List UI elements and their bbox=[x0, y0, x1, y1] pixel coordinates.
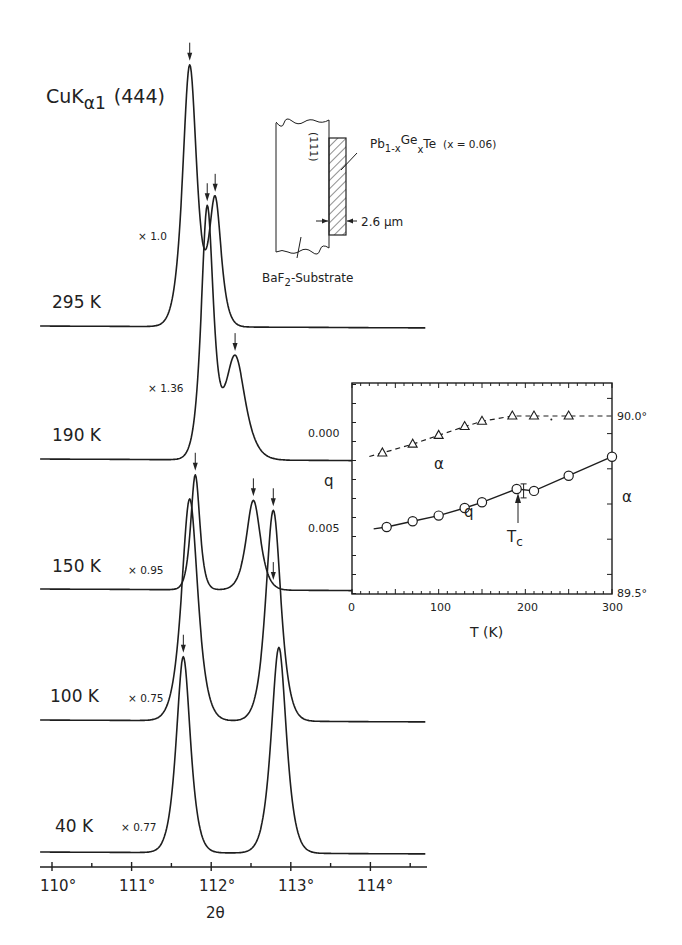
peak-arrowhead bbox=[233, 343, 238, 351]
inset-x-tick-100: 100 bbox=[430, 601, 451, 614]
scale-label-150k: × 0.95 bbox=[128, 564, 164, 576]
curve-label-150k: 150 K bbox=[52, 556, 102, 576]
thickness-arrowhead-left bbox=[322, 219, 328, 224]
peak-arrowhead bbox=[181, 645, 186, 653]
main-title: CuKα1(444) bbox=[46, 85, 165, 113]
xrd-figure: CuKα1(444) 295 K 190 K 150 K 100 K 40 K … bbox=[0, 0, 682, 945]
q-circle-marker bbox=[408, 517, 417, 526]
inset-y-label-q: q bbox=[324, 472, 334, 490]
curve-label-40k: 40 K bbox=[55, 816, 94, 836]
x-axis-label: 2θ bbox=[206, 904, 225, 922]
stray-dot bbox=[550, 419, 552, 421]
q-circle-marker bbox=[512, 484, 521, 493]
inset-x-tick-200: 200 bbox=[517, 601, 538, 614]
q-circle-marker bbox=[477, 498, 486, 507]
substrate-leader-line bbox=[297, 237, 301, 258]
x-tick-114: 114° bbox=[357, 877, 393, 895]
thickness-label: 2.6 µm bbox=[361, 215, 403, 229]
peak-arrowhead bbox=[271, 572, 276, 580]
film-formula: Pb1-xGexTe(x = 0.06) bbox=[370, 133, 496, 155]
inset-y-label-alpha: α bbox=[622, 488, 632, 506]
q-circle-marker bbox=[382, 522, 391, 531]
q-circle-marker bbox=[607, 452, 616, 461]
inset-y-tick-0000: 0.000 bbox=[308, 427, 340, 440]
inset-y-tick-0005: 0.005 bbox=[308, 522, 340, 535]
sample-schematic: (111) Pb1-xGexTe(x = 0.06) 2.6 µm BaF2-S… bbox=[262, 119, 496, 288]
diffraction-curve-40k bbox=[40, 647, 425, 854]
x-tick-112: 112° bbox=[199, 877, 235, 895]
peak-arrowhead bbox=[271, 498, 276, 506]
q-circle-marker bbox=[434, 511, 443, 520]
thickness-arrowhead-right bbox=[347, 219, 353, 224]
x-tick-111: 111° bbox=[119, 877, 155, 895]
inset-y-right-tick-895: 89.5° bbox=[617, 587, 647, 600]
q-circle-marker bbox=[529, 486, 538, 495]
peak-arrowhead bbox=[187, 53, 192, 61]
inset-x-tick-0: 0 bbox=[348, 601, 355, 614]
x-tick-110: 110° bbox=[40, 877, 76, 895]
peak-arrowhead bbox=[193, 463, 198, 471]
substrate-block bbox=[276, 119, 329, 254]
inset-y-right-tick-900: 90.0° bbox=[617, 410, 647, 423]
inset-frame bbox=[352, 383, 612, 594]
inset-series-label-q: q bbox=[464, 503, 474, 521]
inset-x-tick-300: 300 bbox=[602, 601, 623, 614]
scale-label-40k: × 0.77 bbox=[121, 821, 157, 833]
scale-label-295k: × 1.0 bbox=[138, 230, 167, 242]
crystal-face-label: (111) bbox=[307, 132, 320, 162]
inset-series-label-alpha: α bbox=[434, 455, 444, 473]
peak-arrowhead bbox=[213, 184, 218, 192]
scale-label-190k: × 1.36 bbox=[148, 382, 184, 394]
scale-label-100k: × 0.75 bbox=[128, 692, 164, 704]
curve-label-100k: 100 K bbox=[50, 686, 100, 706]
inset-plot: 0.000 0.005 q 90.0° 89.5° α 0 100 200 30… bbox=[308, 383, 647, 640]
q-circle-marker bbox=[564, 471, 573, 480]
film-layer bbox=[329, 138, 346, 235]
peak-arrowhead bbox=[251, 488, 256, 496]
substrate-label: BaF2-Substrate bbox=[262, 271, 353, 288]
x-tick-113: 113° bbox=[278, 877, 314, 895]
peak-arrowhead bbox=[205, 193, 210, 201]
curve-label-190k: 190 K bbox=[52, 425, 102, 445]
curve-label-295k: 295 K bbox=[52, 292, 102, 312]
inset-x-label: T (K) bbox=[469, 624, 503, 640]
